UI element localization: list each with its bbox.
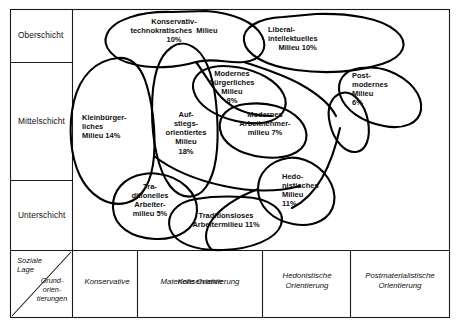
- stratum-label-oberschicht: Oberschicht: [18, 31, 63, 40]
- milieu-label-traditionsloses-arbeitermilieu: Traditionsloses Arbeitermilieu 11%: [178, 211, 274, 229]
- milieu-label-modernes-buergerliches: Modernes bürgerliches Milieu 8%: [203, 69, 261, 106]
- orientation-header-postmaterialistische: Postmaterialistische Orientierung: [353, 271, 447, 290]
- milieu-label-aufstiegsorientiertes: Auf- stiegs- orientiertes Milieu 18%: [160, 110, 212, 156]
- milieu-label-hedonistisches: Hedo- nistisches Milieu 11%: [282, 172, 319, 209]
- stratum-label-mittelschicht: Mittelschicht: [18, 117, 65, 126]
- sinus-milieu-diagram: Oberschicht Mittelschicht Unterschicht S…: [0, 0, 460, 323]
- milieu-label-postmodernes: Post- modernes Milieu 6%: [352, 71, 388, 108]
- orientation-header-materielle: Materielle Orientierung: [140, 277, 260, 287]
- orientation-header-konservative-cell: Konservative: [78, 277, 136, 287]
- milieu-label-traditionelles-arbeitermilieu: Tra- ditionelles Arbeiter- milieu 5%: [122, 182, 178, 219]
- axis-label-grundorientierungen: Grund- orien- tierungen: [33, 277, 71, 303]
- milieu-label-kleinbuergerliches: Kleinbürger- liches Milieu 14%: [82, 113, 127, 140]
- milieu-label-modernes-arbeitnehmermilieu: Modernes Arbeitnehmer- milieu 7%: [232, 110, 298, 137]
- axis-label-soziale-lage: Soziale Lage: [17, 256, 42, 274]
- orientation-header-hedonistische: Hedonistische Orientierung: [265, 271, 349, 290]
- stratum-label-unterschicht: Unterschicht: [18, 211, 65, 220]
- milieu-label-konservativ-technokratisches: Konservativ- technokratisches Milieu 10%: [118, 17, 230, 44]
- milieu-label-liberal-intellektuelles: Liberal- intellektuelles Milieu 10%: [268, 25, 318, 52]
